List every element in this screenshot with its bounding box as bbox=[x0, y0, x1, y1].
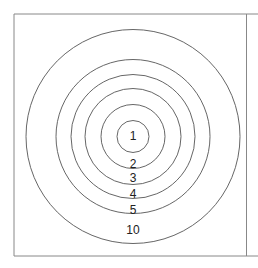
concentric-rings-diagram: 1234510 bbox=[0, 0, 258, 268]
ring-label-3: 3 bbox=[130, 171, 137, 185]
ring-label-10: 10 bbox=[126, 223, 140, 237]
ring-label-group: 1234510 bbox=[126, 129, 140, 237]
ring-label-5: 5 bbox=[130, 203, 137, 217]
ring-label-2: 2 bbox=[130, 157, 137, 171]
ring-label-1: 1 bbox=[130, 129, 137, 143]
ring-label-4: 4 bbox=[130, 187, 137, 201]
